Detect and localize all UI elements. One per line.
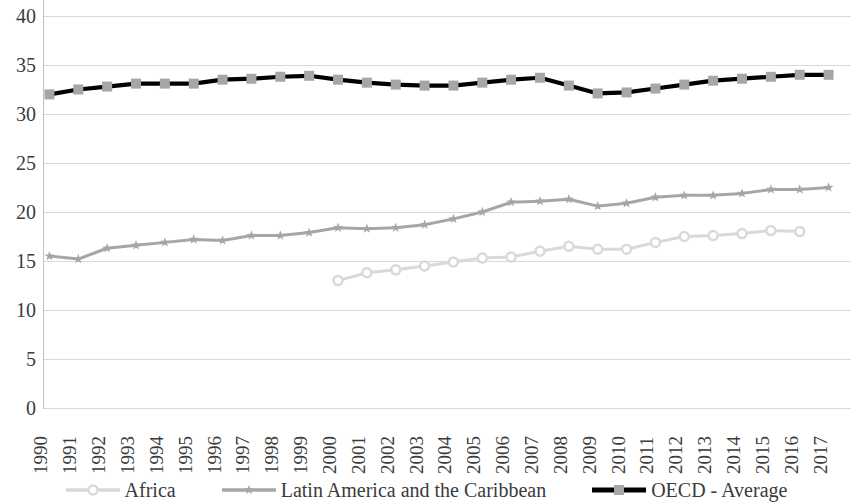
- legend-key-circle-icon: [64, 481, 122, 499]
- x-axis-tick-2005: 2005: [464, 436, 483, 474]
- x-axis-tick-2001: 2001: [349, 436, 368, 474]
- x-axis-tick-1997: 1997: [233, 436, 252, 474]
- x-axis-tick-2017: 2017: [811, 436, 830, 474]
- x-axis-tick-1998: 1998: [262, 436, 281, 474]
- y-axis-tick-labels: 0510152025303540: [0, 0, 36, 415]
- x-axis-tick-1990: 1990: [31, 436, 50, 474]
- plot-area: [43, 0, 851, 415]
- x-axis-tick-2008: 2008: [551, 436, 570, 474]
- y-axis-tick-5: 5: [26, 349, 36, 369]
- x-axis-tick-2004: 2004: [435, 436, 454, 474]
- y-axis-tick-15: 15: [16, 251, 36, 271]
- x-axis-tick-2014: 2014: [724, 436, 743, 474]
- y-axis-tick-40: 40: [16, 6, 36, 26]
- x-axis-tick-2000: 2000: [320, 436, 339, 474]
- y-axis-tick-20: 20: [16, 202, 36, 222]
- legend-key-square-icon: [590, 481, 648, 499]
- x-axis-tick-labels: 1990199119921993199419951996199719981999…: [43, 412, 851, 474]
- x-axis-tick-2016: 2016: [782, 436, 801, 474]
- y-axis-line: [43, 0, 44, 409]
- legend-label-1: Africa: [125, 480, 176, 500]
- line-chart: 0510152025303540 19901991199219931994199…: [0, 0, 851, 503]
- legend-label-2: Latin America and the Caribbean: [281, 480, 546, 500]
- chart-legend: AfricaLatin America and the CaribbeanOEC…: [0, 476, 851, 503]
- x-axis-tick-1999: 1999: [291, 436, 310, 474]
- series-layer: [43, 0, 851, 415]
- x-axis-tick-2013: 2013: [695, 436, 714, 474]
- x-axis-tick-2010: 2010: [609, 436, 628, 474]
- x-axis-tick-2006: 2006: [493, 436, 512, 474]
- x-axis-tick-1994: 1994: [147, 436, 166, 474]
- x-axis-tick-1991: 1991: [60, 436, 79, 474]
- x-axis-tick-1996: 1996: [205, 436, 224, 474]
- x-axis-tick-2003: 2003: [407, 436, 426, 474]
- x-axis-tick-2011: 2011: [637, 437, 656, 474]
- x-axis-tick-2007: 2007: [522, 436, 541, 474]
- x-axis-tick-1992: 1992: [89, 436, 108, 474]
- y-axis-tick-25: 25: [16, 153, 36, 173]
- legend-item-3[interactable]: OECD - Average: [590, 480, 787, 500]
- series-1: [334, 226, 805, 285]
- x-axis-tick-1993: 1993: [118, 436, 137, 474]
- x-axis-tick-1995: 1995: [176, 436, 195, 474]
- legend-item-1[interactable]: Africa: [64, 480, 176, 500]
- y-axis-tick-10: 10: [16, 300, 36, 320]
- legend-item-2[interactable]: Latin America and the Caribbean: [220, 480, 546, 500]
- x-axis-tick-2015: 2015: [753, 436, 772, 474]
- legend-label-3: OECD - Average: [651, 480, 787, 500]
- plot-wrapper: 0510152025303540: [0, 0, 851, 415]
- y-axis-tick-35: 35: [16, 55, 36, 75]
- x-axis-tick-2002: 2002: [378, 436, 397, 474]
- series-2: [44, 182, 833, 263]
- x-axis-tick-2009: 2009: [580, 436, 599, 474]
- x-axis-tick-2012: 2012: [666, 436, 685, 474]
- y-axis-tick-30: 30: [16, 104, 36, 124]
- legend-key-star-icon: [220, 481, 278, 499]
- series-3: [44, 70, 833, 100]
- y-axis-tick-0: 0: [26, 398, 36, 418]
